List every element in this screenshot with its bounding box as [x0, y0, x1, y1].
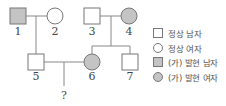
legend-item-normal-female: 정상 여자	[153, 41, 218, 56]
unknown-child-label: ?	[61, 89, 67, 102]
legend-label: (가) 발현 남자	[168, 56, 218, 68]
pedigree-chart: 1 2 3 4 5 6 7 ?	[0, 0, 150, 106]
label-7: 7	[127, 70, 134, 83]
individual-1-affected-male	[10, 8, 26, 24]
filled-circle-icon	[153, 72, 163, 82]
circle-icon	[153, 43, 163, 53]
individual-4-affected-female	[121, 8, 137, 24]
label-1: 1	[15, 25, 22, 38]
label-2: 2	[52, 25, 59, 38]
label-5: 5	[33, 70, 40, 83]
legend-label: 정상 남자	[168, 27, 202, 39]
individual-3-normal-male	[84, 8, 100, 24]
legend-item-normal-male: 정상 남자	[153, 26, 218, 41]
individual-7-normal-male	[122, 54, 138, 70]
label-4: 4	[126, 25, 133, 38]
individual-5-normal-male	[28, 54, 44, 70]
individual-6-affected-female	[84, 54, 100, 70]
legend-item-affected-female: (가) 발현 여자	[153, 70, 218, 85]
label-6: 6	[89, 70, 96, 83]
label-3: 3	[89, 25, 96, 38]
legend-label: 정상 여자	[168, 42, 202, 54]
legend: 정상 남자 정상 여자 (가) 발현 남자 (가) 발현 여자	[153, 26, 218, 84]
filled-square-icon	[153, 57, 163, 67]
individual-2-normal-female	[47, 8, 63, 24]
legend-item-affected-male: (가) 발현 남자	[153, 55, 218, 70]
square-icon	[153, 28, 163, 38]
legend-label: (가) 발현 여자	[168, 71, 218, 83]
